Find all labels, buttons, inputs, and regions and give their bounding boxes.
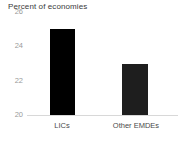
bar-other-emdes: [122, 64, 148, 116]
y-tick-label: 22: [15, 77, 23, 85]
bar-lics: [50, 29, 75, 115]
bar-chart: Percent of economies 26 24 22 20 LICs Ot…: [0, 0, 182, 141]
y-tick-label: 24: [15, 42, 23, 50]
x-tick-label-other-emdes: Other EMDEs: [104, 121, 168, 130]
y-tick-label: 20: [15, 111, 23, 119]
plot-area: [27, 12, 178, 115]
y-axis: 26 24 22 20: [0, 0, 27, 141]
x-tick-label-lics: LICs: [36, 121, 88, 130]
x-axis-baseline: [27, 115, 178, 116]
y-tick-label: 26: [15, 8, 23, 16]
